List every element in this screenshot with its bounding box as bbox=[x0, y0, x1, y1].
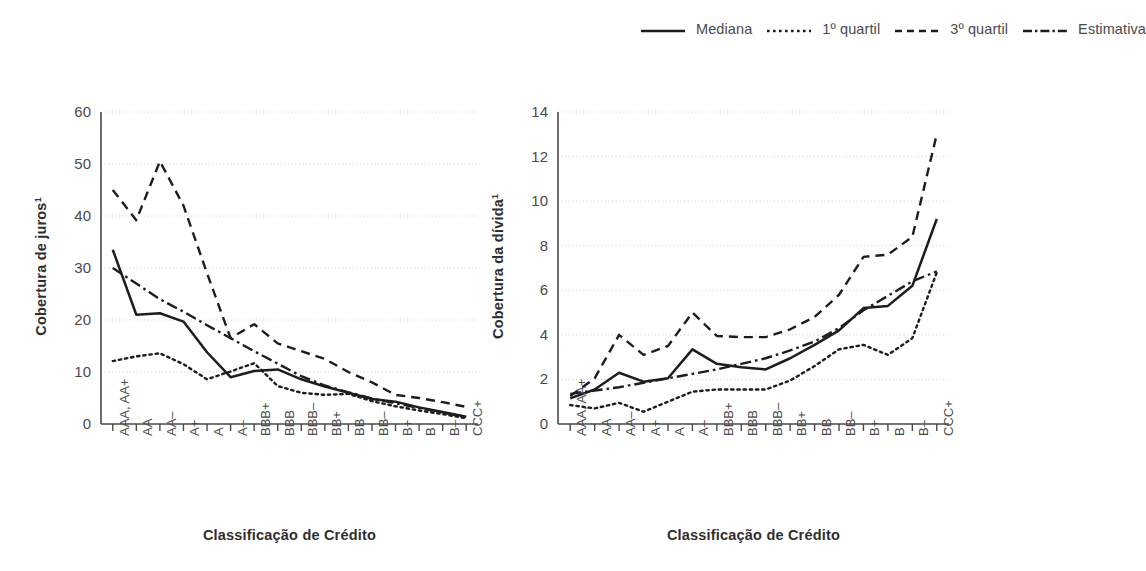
plot-area-left bbox=[0, 0, 500, 571]
y-axis-tick-label: 14 bbox=[514, 104, 548, 119]
x-axis-tick-label: A bbox=[212, 427, 225, 436]
x-axis-tick-label: AA– bbox=[165, 411, 178, 436]
x-axis-tick-label: CCC+ bbox=[471, 400, 484, 436]
plot-area-right bbox=[492, 0, 992, 571]
y-axis-tick-label: 10 bbox=[514, 193, 548, 208]
x-axis-tick-label: A+ bbox=[649, 420, 662, 436]
y-axis-tick-label: 8 bbox=[514, 238, 548, 253]
x-axis-tick-label: AAA, AA+ bbox=[118, 379, 131, 436]
x-axis-tick-label: AA bbox=[600, 419, 613, 436]
series-line-1-quartil bbox=[570, 272, 937, 411]
x-axis-tick-label: BBB+ bbox=[259, 402, 272, 436]
x-axis-tick-label: CCC+ bbox=[942, 400, 955, 436]
y-axis-tick-label: 10 bbox=[57, 364, 91, 379]
y-axis-tick-label: 6 bbox=[514, 282, 548, 297]
x-axis-tick-label: BBB bbox=[746, 410, 759, 436]
legend-entry-estimativa: Estimativa bbox=[1022, 14, 1146, 44]
x-axis-tick-label: BB bbox=[820, 419, 833, 436]
x-axis-tick-label: BBB bbox=[283, 410, 296, 436]
chart-panel-cobertura-da-divida: Cobertura da dívida1 Classificação de Cr… bbox=[492, 0, 992, 571]
legend-label-estimativa: Estimativa bbox=[1078, 21, 1146, 37]
x-axis-tick-label: B bbox=[893, 427, 906, 436]
series-line-mediana bbox=[570, 219, 937, 398]
y-axis-tick-label: 30 bbox=[57, 260, 91, 275]
x-axis-tick-label: A– bbox=[697, 420, 710, 436]
y-axis-tick-label: 12 bbox=[514, 149, 548, 164]
series-line-3-quartil bbox=[570, 134, 937, 396]
x-axis-tick-label: B– bbox=[917, 420, 930, 436]
x-axis-tick-label: BB– bbox=[844, 411, 857, 436]
x-axis-tick-label: A bbox=[673, 427, 686, 436]
x-axis-title-left: Classificação de Crédito bbox=[101, 527, 478, 543]
series-line-1-quartil bbox=[113, 353, 466, 418]
y-axis-tick-label: 2 bbox=[514, 371, 548, 386]
y-axis-tick-label: 0 bbox=[57, 416, 91, 431]
y-axis-tick-label: 4 bbox=[514, 327, 548, 342]
y-axis-tick-label: 20 bbox=[57, 312, 91, 327]
series-line-estimativa bbox=[113, 268, 466, 417]
x-axis-tick-label: A+ bbox=[188, 420, 201, 436]
series-line-mediana bbox=[113, 250, 466, 417]
x-axis-tick-label: AA bbox=[141, 419, 154, 436]
x-axis-tick-label: BBB– bbox=[306, 403, 319, 436]
x-axis-tick-label: B bbox=[424, 427, 437, 436]
x-axis-tick-label: BB+ bbox=[795, 411, 808, 436]
x-axis-tick-label: BBB– bbox=[771, 403, 784, 436]
x-axis-tick-label: A– bbox=[236, 420, 249, 436]
dash-dot-line-icon bbox=[1022, 23, 1068, 35]
y-axis-tick-label: 50 bbox=[57, 156, 91, 171]
y-axis-tick-label: 60 bbox=[57, 104, 91, 119]
x-axis-tick-label: B+ bbox=[868, 420, 881, 436]
y-axis-tick-label: 0 bbox=[514, 416, 548, 431]
x-axis-tick-label: AAA, AA+ bbox=[575, 379, 588, 436]
x-axis-tick-label: BB bbox=[353, 419, 366, 436]
x-axis-tick-label: B– bbox=[448, 420, 461, 436]
chart-panel-cobertura-de-juros: Cobertura de juros1 Classificação de Cré… bbox=[0, 0, 500, 571]
x-axis-tick-label: BB– bbox=[377, 411, 390, 436]
x-axis-tick-label: BBB+ bbox=[722, 402, 735, 436]
x-axis-tick-label: BB+ bbox=[330, 411, 343, 436]
x-axis-tick-label: AA– bbox=[624, 411, 637, 436]
x-axis-tick-label: B+ bbox=[401, 420, 414, 436]
y-axis-tick-label: 40 bbox=[57, 208, 91, 223]
x-axis-title-right: Classificação de Crédito bbox=[558, 527, 949, 543]
